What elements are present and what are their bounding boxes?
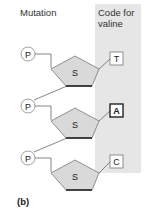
- phosphate-label: P: [25, 50, 31, 60]
- base-label: A: [113, 106, 120, 116]
- nucleotide-1: P S T: [21, 47, 123, 86]
- phosphate-label: P: [25, 102, 31, 112]
- sugar-label: S: [72, 172, 78, 182]
- sugar-label: S: [72, 68, 78, 78]
- figure-label: (b): [17, 196, 29, 207]
- sugar-label: S: [72, 120, 78, 130]
- nucleotide-3: P S C: [21, 151, 123, 190]
- phosphate-label: P: [25, 154, 31, 164]
- base-label: T: [114, 54, 120, 64]
- nucleotide-2: P S A: [21, 99, 123, 138]
- base-label: C: [113, 157, 120, 167]
- dna-strand-diagram: P S T P S A P S C: [0, 0, 148, 215]
